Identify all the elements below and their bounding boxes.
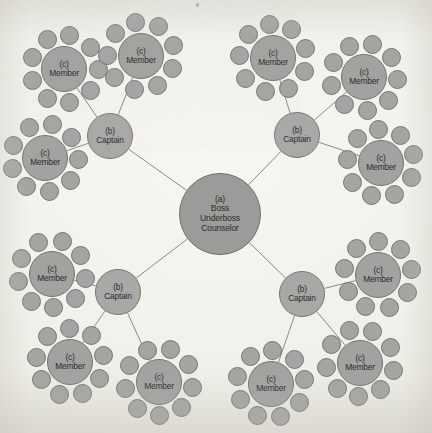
node-member-bl-c[interactable]: (c)Member xyxy=(136,359,182,405)
member-satellite-circle xyxy=(32,370,51,389)
member-satellite-circle xyxy=(4,136,23,155)
member-satellite-circle xyxy=(22,292,41,311)
node-member-tl-c[interactable]: (c)Member xyxy=(22,135,68,181)
node-member-bl-a[interactable]: (c)Member xyxy=(29,251,75,297)
member-title: Member xyxy=(258,58,288,67)
member-satellite-circle xyxy=(43,115,62,134)
member-satellite-circle xyxy=(38,327,57,346)
node-member-bl-b[interactable]: (c)Member xyxy=(47,339,93,385)
member-satellite-circle xyxy=(391,240,410,259)
member-satellite-circle xyxy=(384,361,403,380)
captain-title: Captain xyxy=(283,135,310,144)
member-satellite-circle xyxy=(172,398,191,417)
node-member-tl-a[interactable]: (c)Member xyxy=(41,46,87,92)
member-satellite-circle xyxy=(38,89,57,108)
member-satellite-circle xyxy=(128,399,147,418)
member-title: Member xyxy=(349,77,379,86)
member-satellite-circle xyxy=(285,350,304,369)
member-satellite-circle xyxy=(380,298,399,317)
member-satellite-circle xyxy=(73,384,92,403)
boss-title-line-3: Counselor xyxy=(201,224,238,234)
member-satellite-circle xyxy=(116,379,135,398)
member-satellite-circle xyxy=(230,46,249,65)
member-satellite-circle xyxy=(163,59,182,78)
node-captain-bottom-left[interactable]: (b)Captain xyxy=(95,269,141,315)
member-satellite-circle xyxy=(317,358,336,377)
node-captain-top-right[interactable]: (b)Captain xyxy=(274,112,320,158)
member-satellite-circle xyxy=(339,282,358,301)
member-title: Member xyxy=(49,69,79,78)
connector-line xyxy=(249,151,281,184)
member-satellite-circle xyxy=(296,39,315,58)
member-title: Member xyxy=(144,382,174,391)
member-satellite-circle xyxy=(239,25,258,44)
member-satellite-circle xyxy=(38,30,57,49)
member-satellite-circle xyxy=(358,101,377,120)
captain-title: Captain xyxy=(288,294,315,303)
member-satellite-circle xyxy=(228,367,247,386)
member-satellite-circle xyxy=(290,393,309,412)
node-member-tr-a[interactable]: (c)Member xyxy=(250,35,296,81)
member-satellite-circle xyxy=(23,48,42,67)
member-satellite-circle xyxy=(279,79,298,98)
member-satellite-circle xyxy=(20,118,39,137)
member-satellite-circle xyxy=(81,81,100,100)
member-satellite-circle xyxy=(379,91,398,110)
member-title: Member xyxy=(366,163,396,172)
member-satellite-circle xyxy=(125,80,144,99)
node-member-tl-b[interactable]: (c)Member xyxy=(118,33,164,79)
member-title: Member xyxy=(37,274,67,283)
member-title: Member xyxy=(126,56,156,65)
member-satellite-circle xyxy=(61,171,80,190)
node-member-tr-b[interactable]: (c)Member xyxy=(341,54,387,100)
captain-title: Captain xyxy=(104,292,131,301)
member-satellite-circle xyxy=(50,385,69,404)
member-satellite-circle xyxy=(295,62,314,81)
member-satellite-circle xyxy=(3,159,22,178)
node-member-br-c[interactable]: (c)Member xyxy=(248,361,294,407)
member-satellite-circle xyxy=(338,150,357,169)
member-title: Member xyxy=(55,362,85,371)
member-satellite-circle xyxy=(82,326,101,345)
member-satellite-circle xyxy=(402,260,421,279)
member-satellite-circle xyxy=(236,69,255,88)
member-satellite-circle xyxy=(120,356,139,375)
member-satellite-circle xyxy=(138,341,157,360)
node-member-tr-c[interactable]: (c)Member xyxy=(358,140,404,186)
member-satellite-circle xyxy=(53,232,72,251)
member-satellite-circle xyxy=(340,321,359,340)
member-satellite-circle xyxy=(231,390,250,409)
member-satellite-circle xyxy=(385,185,404,204)
node-captain-top-left[interactable]: (b)Captain xyxy=(87,113,133,159)
member-satellite-circle xyxy=(381,338,400,357)
member-satellite-circle xyxy=(94,346,113,365)
member-satellite-circle xyxy=(343,173,362,192)
connector-line xyxy=(129,149,187,190)
connector-line xyxy=(249,243,285,278)
member-satellite-circle xyxy=(347,239,366,258)
node-member-br-b[interactable]: (c)Member xyxy=(337,340,383,386)
member-satellite-circle xyxy=(27,348,46,367)
member-satellite-circle xyxy=(263,341,282,360)
member-satellite-circle xyxy=(164,36,183,55)
member-title: Member xyxy=(363,275,393,284)
member-satellite-circle xyxy=(23,71,42,90)
member-satellite-circle xyxy=(66,289,85,308)
member-satellite-circle xyxy=(60,319,79,338)
member-satellite-circle xyxy=(90,369,109,388)
member-satellite-circle xyxy=(179,355,198,374)
node-captain-bottom-right[interactable]: (b)Captain xyxy=(279,271,325,317)
member-satellite-circle xyxy=(369,232,388,251)
node-member-br-a[interactable]: (c)Member xyxy=(355,252,401,298)
member-satellite-circle xyxy=(106,24,125,43)
member-satellite-circle xyxy=(81,38,100,57)
member-satellite-circle xyxy=(105,68,124,87)
node-boss[interactable]: (a) Boss Underboss Counselor xyxy=(179,173,261,255)
member-satellite-circle xyxy=(322,76,341,95)
member-title: Member xyxy=(345,363,375,372)
captain-title: Captain xyxy=(96,136,123,145)
member-satellite-circle xyxy=(398,283,417,302)
member-satellite-circle xyxy=(260,15,279,34)
connector-line xyxy=(136,239,187,278)
member-title: Member xyxy=(256,384,286,393)
